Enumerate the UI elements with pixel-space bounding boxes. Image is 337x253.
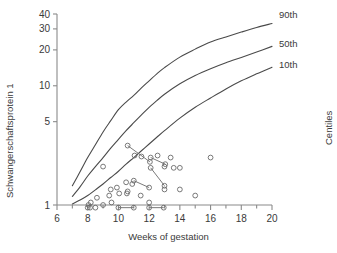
data-point-marker <box>117 191 122 196</box>
x-tick-label: 14 <box>174 213 186 224</box>
x-tick-label: 16 <box>205 213 217 224</box>
data-point-marker <box>108 187 113 192</box>
data-point-marker <box>124 180 129 185</box>
x-tick-label: 8 <box>85 213 91 224</box>
y-tick-label: 20 <box>39 44 51 55</box>
centile-curve-90th <box>72 23 272 185</box>
y-tick-label: 5 <box>44 116 50 127</box>
data-point-marker <box>177 187 182 192</box>
data-point-marker <box>101 164 106 169</box>
data-point-marker <box>208 155 213 160</box>
data-point-marker <box>171 165 176 170</box>
data-point-marker <box>177 165 182 170</box>
data-point-marker <box>107 193 112 198</box>
x-tick-label: 20 <box>266 213 278 224</box>
y-tick-label: 10 <box>39 80 51 91</box>
curve-label-50th: 50th <box>279 38 298 49</box>
centile-curve-10th <box>72 67 272 204</box>
x-tick-label: 18 <box>236 213 248 224</box>
y-tick-label: 40 <box>39 9 51 20</box>
data-point-marker <box>193 193 198 198</box>
x-tick-label: 12 <box>144 213 156 224</box>
x-axis-title: Weeks of gestation <box>0 231 337 242</box>
data-point-marker <box>138 193 143 198</box>
x-tick-label: 6 <box>54 213 60 224</box>
y-axis-title: Schwangerschaftsprotein 1 <box>4 83 15 198</box>
curve-label-10th: 10th <box>279 59 298 70</box>
y-tick-label: 30 <box>39 23 51 34</box>
data-point-marker <box>147 200 152 205</box>
data-point-marker <box>155 153 160 158</box>
patient-link-line <box>151 168 165 186</box>
x-tick-label: 10 <box>113 213 125 224</box>
data-point-marker <box>109 200 114 205</box>
data-point-marker <box>93 205 98 210</box>
data-point-marker <box>114 185 119 190</box>
data-point-marker <box>168 155 173 160</box>
data-point-marker <box>95 195 100 200</box>
centile-curve-50th <box>72 46 272 196</box>
chart-container: 151020304068101214161820 Schwangerschaft… <box>0 0 337 253</box>
secondary-axis-title: Centiles <box>323 111 334 145</box>
y-tick-label: 1 <box>44 200 50 211</box>
curve-label-90th: 90th <box>279 9 298 20</box>
